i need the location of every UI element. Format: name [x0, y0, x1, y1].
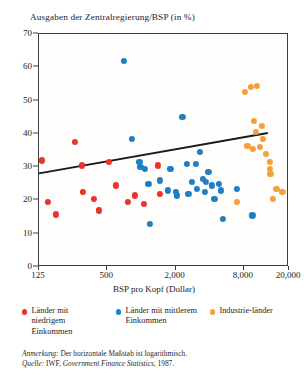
- data-point: [45, 199, 51, 205]
- data-point: [106, 159, 112, 165]
- data-point: [141, 201, 147, 207]
- source-publication: Government Finance Statistics: [63, 359, 154, 368]
- data-point: [279, 189, 285, 195]
- y-axis-tick-label: 70: [2, 28, 32, 38]
- x-axis-tick-mark: [175, 266, 176, 270]
- data-point: [157, 177, 163, 183]
- data-point: [164, 187, 170, 193]
- data-point: [96, 207, 102, 213]
- y-axis-tick-label: 60: [2, 61, 32, 71]
- data-point: [146, 221, 152, 227]
- chart-title: Ausgaben der Zentralregierung/BSP (in %): [30, 12, 195, 22]
- data-point: [234, 186, 240, 192]
- notes-block: Anmerkung: Der horizontale Maßstab ist l…: [22, 349, 302, 368]
- data-point: [209, 182, 215, 188]
- data-point: [197, 149, 203, 155]
- legend-item[interactable]: Industrie-länder: [210, 306, 292, 337]
- data-point: [201, 189, 207, 195]
- source-note: Quelle: IWF, Government Finance Statisti…: [22, 359, 302, 369]
- data-point: [145, 181, 151, 187]
- data-point: [248, 84, 254, 90]
- data-point: [185, 191, 191, 197]
- data-point: [242, 89, 248, 95]
- legend-label: Länder mit mittlerem Einkommen: [125, 306, 198, 327]
- legend-swatch-icon: [210, 309, 215, 314]
- data-point: [260, 136, 266, 142]
- data-point: [80, 189, 86, 195]
- legend-item[interactable]: Länder mit niedrigem Einkommen: [22, 306, 104, 337]
- data-point: [142, 166, 148, 172]
- data-point: [254, 82, 260, 88]
- data-point: [267, 159, 273, 165]
- data-point: [125, 199, 131, 205]
- data-point: [234, 199, 240, 205]
- x-axis-tick-mark: [38, 266, 39, 270]
- data-point: [113, 182, 119, 188]
- data-point: [253, 129, 259, 135]
- data-point: [129, 136, 135, 142]
- y-axis-tick-label: 40: [2, 128, 32, 138]
- data-point: [79, 162, 85, 168]
- data-point: [39, 157, 45, 163]
- data-point: [179, 114, 185, 120]
- data-point: [218, 187, 224, 193]
- legend-label: Länder mit niedrigem Einkommen: [31, 306, 104, 337]
- y-axis-tick-label: 10: [2, 228, 32, 238]
- data-point: [211, 196, 217, 202]
- y-axis-tick-label: 50: [2, 95, 32, 105]
- data-point: [157, 191, 163, 197]
- data-points-layer: [39, 34, 287, 265]
- data-point: [270, 196, 276, 202]
- data-point: [183, 161, 189, 167]
- annotation-text: Der horizontale Maßstab ist logarithmisc…: [59, 349, 188, 358]
- legend-label: Industrie-länder: [219, 306, 273, 316]
- data-point: [194, 186, 200, 192]
- annotation-note: Anmerkung: Der horizontale Maßstab ist l…: [22, 349, 302, 359]
- data-point: [263, 151, 269, 157]
- data-point: [53, 211, 59, 217]
- data-point: [250, 146, 256, 152]
- x-axis-tick-mark: [288, 266, 289, 270]
- x-axis-tick-label: 20,000: [276, 270, 301, 280]
- x-axis-title: BSP pro Kopf (Dollar): [0, 284, 308, 294]
- data-point: [216, 181, 222, 187]
- data-point: [167, 166, 173, 172]
- annotation-prefix: Anmerkung:: [22, 349, 59, 358]
- data-point: [251, 117, 257, 123]
- source-text-c: , 1987.: [154, 359, 174, 368]
- x-axis-tick-mark: [243, 266, 244, 270]
- y-axis-tick-label: 20: [2, 194, 32, 204]
- x-axis-tick-label: 125: [31, 270, 45, 280]
- y-axis-tick-label: 30: [2, 161, 32, 171]
- y-axis-tick-label: 0: [2, 261, 32, 271]
- x-axis-tick-label: 2,000: [164, 270, 184, 280]
- legend-swatch-icon: [22, 309, 27, 314]
- legend: Länder mit niedrigem EinkommenLänder mit…: [22, 306, 292, 337]
- data-point: [192, 161, 198, 167]
- data-point: [220, 216, 226, 222]
- data-point: [249, 212, 255, 218]
- source-text-a: IWF,: [44, 359, 63, 368]
- data-point: [121, 58, 127, 64]
- x-axis-tick-label: 500: [100, 270, 114, 280]
- data-point: [155, 162, 161, 168]
- data-point: [132, 192, 138, 198]
- data-point: [205, 169, 211, 175]
- legend-swatch-icon: [116, 309, 121, 314]
- data-point: [259, 122, 265, 128]
- plot-area: [38, 33, 288, 266]
- data-point: [256, 144, 262, 150]
- data-point: [72, 139, 78, 145]
- data-point: [174, 192, 180, 198]
- figure-container: Ausgaben der Zentralregierung/BSP (in %)…: [0, 0, 308, 373]
- x-axis-tick-label: 8,000: [233, 270, 253, 280]
- data-point: [91, 196, 97, 202]
- data-point: [267, 171, 273, 177]
- data-point: [189, 179, 195, 185]
- legend-item[interactable]: Länder mit mittlerem Einkommen: [116, 306, 198, 337]
- x-axis-tick-mark: [106, 266, 107, 270]
- source-prefix: Quelle:: [22, 359, 44, 368]
